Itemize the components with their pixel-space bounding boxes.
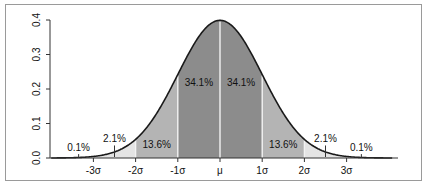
band-4 <box>220 20 262 158</box>
x-tick-label: μ <box>217 165 223 176</box>
normal-distribution-chart: 0.00.10.20.30.4 -3σ-2σ-1σμ1σ2σ3σ 0.1%2.1… <box>0 0 428 189</box>
x-tick-label: 2σ <box>299 165 312 176</box>
x-tick-label: -1σ <box>170 165 186 176</box>
percentage-label: 34.1% <box>227 77 255 88</box>
x-tick-label: 3σ <box>341 165 354 176</box>
y-tick-label: 0.3 <box>31 47 42 61</box>
x-tick-label: 1σ <box>256 165 269 176</box>
percentage-label: 34.1% <box>185 77 213 88</box>
x-axis-ticks: -3σ-2σ-1σμ1σ2σ3σ <box>86 158 353 176</box>
x-tick-label: -3σ <box>86 165 102 176</box>
percentage-label: 2.1% <box>314 133 337 144</box>
percentage-label: 2.1% <box>103 133 126 144</box>
y-tick-label: 0.1 <box>31 116 42 130</box>
percentage-label: 13.6% <box>143 139 171 150</box>
percentage-label: 13.6% <box>269 139 297 150</box>
band-3 <box>178 20 220 158</box>
y-axis-ticks: 0.00.10.20.30.4 <box>31 13 50 165</box>
percentage-label: 0.1% <box>350 142 373 153</box>
y-tick-label: 0.2 <box>31 82 42 96</box>
y-tick-label: 0.0 <box>31 151 42 165</box>
x-tick-label: -2σ <box>128 165 144 176</box>
y-tick-label: 0.4 <box>31 13 42 27</box>
percentage-label: 0.1% <box>67 142 90 153</box>
